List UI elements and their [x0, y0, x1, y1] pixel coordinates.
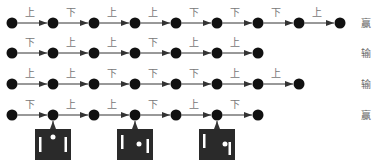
move-label: 上 [230, 68, 240, 79]
state-node [7, 18, 18, 29]
move-label: 下 [107, 68, 117, 79]
move-label: 下 [189, 68, 199, 79]
state-node [171, 18, 182, 29]
sequence-row: 上下上上下下下上赢 [7, 7, 372, 29]
move-label: 下 [230, 99, 240, 110]
state-node [89, 79, 100, 90]
move-label: 上 [189, 37, 199, 48]
move-label: 下 [148, 99, 158, 110]
left-paddle [203, 134, 206, 148]
pong-screen-icon [199, 129, 235, 160]
sequence-row: 下上上下上上输 [7, 37, 372, 59]
sequence-row: 下上上下上下赢 [7, 99, 372, 121]
state-node [212, 79, 223, 90]
move-label: 下 [25, 99, 35, 110]
sequence-diagram: 上下上上下下下上赢下上上下上上输上上下下下上上输下上上下上下赢 [0, 0, 378, 168]
state-node [130, 110, 141, 121]
right-paddle [147, 139, 150, 153]
move-label: 下 [148, 68, 158, 79]
game-screen [199, 121, 235, 160]
state-node [212, 18, 223, 29]
move-label: 上 [107, 37, 117, 48]
state-node [130, 79, 141, 90]
state-node [253, 79, 264, 90]
state-node [171, 48, 182, 59]
state-node [171, 110, 182, 121]
right-paddle [229, 142, 232, 155]
move-label: 下 [189, 7, 199, 18]
move-label: 下 [25, 37, 35, 48]
ball [223, 142, 228, 147]
left-paddle [121, 135, 124, 149]
move-label: 上 [25, 68, 35, 79]
move-label: 上 [107, 99, 117, 110]
state-node [89, 18, 100, 29]
result-label: 赢 [361, 17, 371, 29]
state-node [212, 110, 223, 121]
move-label: 上 [148, 7, 158, 18]
result-label: 赢 [361, 109, 371, 121]
move-label: 上 [230, 37, 240, 48]
state-node [171, 79, 182, 90]
state-node [48, 110, 59, 121]
move-label: 上 [66, 99, 76, 110]
state-node [89, 110, 100, 121]
state-node [130, 48, 141, 59]
move-label: 上 [66, 37, 76, 48]
move-label: 上 [66, 68, 76, 79]
move-label: 上 [107, 7, 117, 18]
state-node [7, 48, 18, 59]
sequence-row: 上上下下下上上输 [7, 68, 372, 90]
state-node [294, 79, 305, 90]
state-node [335, 18, 346, 29]
pong-screen-icon [117, 129, 153, 160]
state-node [48, 79, 59, 90]
state-node [7, 110, 18, 121]
result-label: 输 [361, 47, 371, 59]
move-label: 下 [66, 7, 76, 18]
move-label: 上 [271, 68, 281, 79]
state-node [130, 18, 141, 29]
ball [137, 142, 142, 147]
move-label: 上 [189, 99, 199, 110]
left-paddle [39, 137, 42, 152]
state-node [89, 48, 100, 59]
state-node [253, 48, 264, 59]
state-node [212, 48, 223, 59]
right-paddle [65, 137, 68, 152]
state-node [294, 18, 305, 29]
move-label: 下 [271, 7, 281, 18]
game-screen [35, 121, 71, 160]
move-label: 上 [312, 7, 322, 18]
state-node [253, 110, 264, 121]
game-screen [117, 121, 153, 160]
state-node [48, 18, 59, 29]
result-label: 输 [361, 78, 371, 90]
state-node [7, 79, 18, 90]
move-label: 上 [25, 7, 35, 18]
move-label: 下 [230, 7, 240, 18]
ball [51, 135, 56, 140]
state-node [48, 48, 59, 59]
pong-screen-icon [35, 129, 71, 160]
move-label: 下 [148, 37, 158, 48]
state-node [253, 18, 264, 29]
